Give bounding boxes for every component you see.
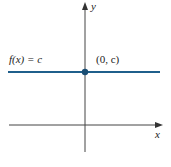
function-label: f(x) = c: [9, 53, 42, 66]
y-axis-label: y: [90, 0, 96, 12]
x-axis-label: x: [154, 128, 160, 140]
point-label: (0, c): [96, 53, 120, 66]
constant-function-graph: y x f(x) = c (0, c): [0, 0, 171, 167]
y-axis-arrow-icon: [82, 2, 88, 10]
y-intercept-point: [82, 69, 88, 75]
